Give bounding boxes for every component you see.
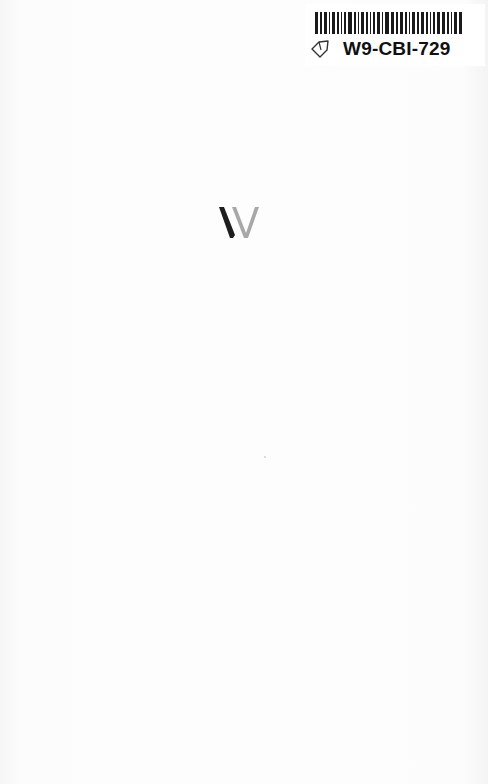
barcode-bar [315, 12, 318, 34]
barcode-bar [421, 12, 424, 34]
barcode-bar [442, 12, 445, 34]
barcode-bar [341, 12, 342, 34]
barcode-bar [396, 12, 398, 34]
barcode-bar [405, 12, 407, 34]
barcode-bar [409, 12, 410, 34]
library-barcode-sticker: W9-CBI-729 [305, 4, 485, 66]
barcode-bar [433, 12, 435, 34]
barcode-bar [354, 12, 356, 34]
barcode-bar [337, 12, 339, 34]
barcode-bar [361, 12, 364, 34]
barcode-bar [332, 12, 335, 34]
barcode-bar [329, 12, 330, 34]
barcode-bar [348, 12, 352, 34]
barcode-bar [430, 12, 431, 34]
barcode [315, 12, 470, 34]
sticker-id-text: W9-CBI-729 [343, 38, 451, 60]
barcode-bar [324, 12, 327, 34]
tag-icon [309, 38, 331, 60]
barcode-bar [344, 12, 346, 34]
barcode-bar [377, 12, 380, 34]
barcode-bar [385, 12, 389, 34]
barcode-bar [358, 12, 359, 34]
publisher-w-logo-icon [219, 205, 259, 239]
barcode-bar [454, 12, 457, 34]
barcode-bar [437, 12, 440, 34]
barcode-bar [412, 12, 415, 34]
barcode-bar [400, 12, 403, 34]
sticker-id-row: W9-CBI-729 [305, 38, 451, 60]
barcode-bar [451, 12, 452, 34]
paper-speck [264, 456, 266, 458]
barcode-bar [320, 12, 322, 34]
barcode-bar [426, 12, 428, 34]
book-page: W9-CBI-729 [0, 0, 488, 784]
barcode-bar [391, 12, 394, 34]
barcode-bar [417, 12, 419, 34]
barcode-bar [447, 12, 449, 34]
barcode-bar [370, 12, 371, 34]
barcode-bar [459, 12, 462, 34]
barcode-bar [366, 12, 368, 34]
barcode-bar [382, 12, 383, 34]
barcode-bar [373, 12, 375, 34]
